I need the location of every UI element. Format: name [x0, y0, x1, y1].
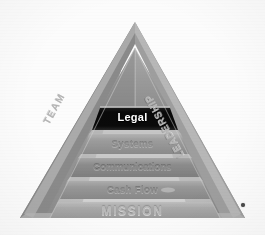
band-legal[interactable] [92, 106, 178, 130]
band-systems[interactable] [81, 134, 189, 154]
cash-flow-glare [161, 187, 175, 192]
pyramid-graphic [0, 0, 265, 235]
diagram-canvas: Legal Systems Communications Cash Flow M… [0, 0, 265, 235]
step-gap-2 [78, 154, 192, 158]
band-mission-face [50, 202, 220, 218]
band-cash-flow-face [60, 181, 210, 199]
band-communications[interactable] [70, 158, 200, 177]
corner-dot-marker [241, 203, 245, 207]
band-systems-face [81, 134, 189, 154]
band-legal-top-step [100, 106, 170, 108]
band-communications-face [70, 158, 200, 177]
band-legal-face [92, 108, 178, 130]
band-cash-flow[interactable] [60, 181, 210, 199]
step-gap-1 [89, 130, 181, 134]
step-gap-3 [67, 177, 203, 181]
band-mission[interactable] [50, 202, 220, 218]
step-gap-4 [58, 199, 212, 202]
